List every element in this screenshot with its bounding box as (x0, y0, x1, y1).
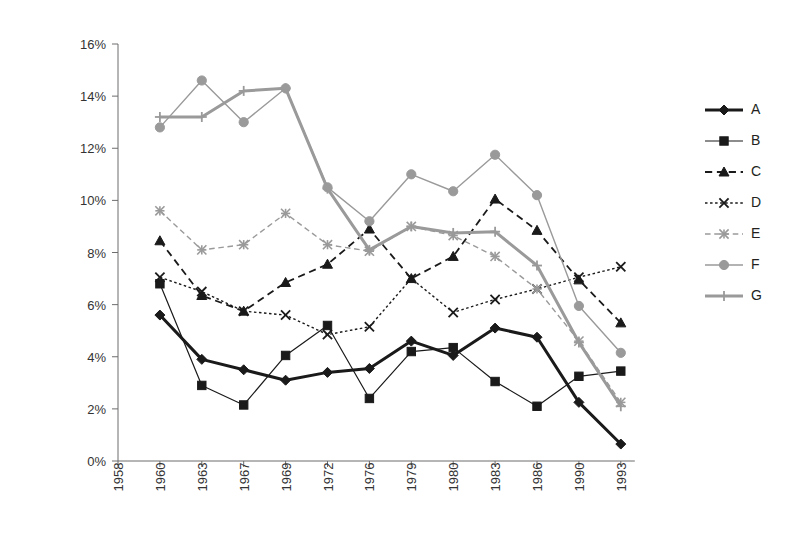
data-point-x-marker (616, 262, 625, 271)
data-point-diamond-marker (239, 365, 249, 375)
data-point-circle-marker (239, 118, 248, 127)
x-tick-label: 1976 (362, 463, 377, 492)
data-point-circle-marker (574, 301, 583, 310)
legend-item-E[interactable]: E (705, 225, 760, 241)
series-F (155, 76, 625, 358)
x-tick-label: 1963 (195, 463, 210, 492)
data-point-circle-marker (407, 170, 416, 179)
legend-label-G: G (751, 287, 762, 303)
y-tick-label: 10% (80, 193, 106, 208)
data-point-circle-marker (449, 187, 458, 196)
data-point-plus-marker (155, 112, 165, 122)
data-point-square-marker (720, 137, 728, 145)
y-tick-label: 6% (87, 298, 106, 313)
x-tick-label: 1980 (446, 463, 461, 492)
data-point-diamond-marker (323, 367, 333, 377)
data-point-square-marker (617, 367, 625, 375)
series-G (155, 83, 626, 411)
data-point-circle-marker (491, 150, 500, 159)
legend-item-F[interactable]: F (705, 256, 760, 272)
data-point-star-marker (197, 245, 206, 254)
data-point-square-marker (575, 372, 583, 380)
legend-item-D[interactable]: D (705, 194, 761, 210)
data-point-circle-marker (532, 191, 541, 200)
data-point-plus-marker (719, 291, 729, 301)
data-point-square-marker (533, 402, 541, 410)
x-tick-label: 1983 (488, 463, 503, 492)
series-line-D (160, 267, 621, 335)
data-point-square-marker (449, 343, 457, 351)
x-tick-label: 1986 (530, 463, 545, 492)
data-point-star-marker (281, 209, 290, 218)
data-point-square-marker (198, 381, 206, 389)
series-E (155, 206, 625, 407)
data-point-circle-marker (197, 76, 206, 85)
data-point-triangle-marker (532, 225, 542, 234)
x-tick-label: 1979 (404, 463, 419, 492)
legend-label-E: E (751, 225, 760, 241)
legend-item-C[interactable]: C (705, 163, 761, 179)
y-axis: 0%2%4%6%8%10%12%14%16% (80, 37, 118, 469)
y-tick-label: 8% (87, 246, 106, 261)
y-tick-label: 4% (87, 350, 106, 365)
data-point-diamond-marker (281, 375, 291, 385)
x-tick-label: 1969 (279, 463, 294, 492)
data-point-triangle-marker (490, 194, 500, 203)
legend-label-C: C (751, 163, 761, 179)
y-tick-label: 14% (80, 89, 106, 104)
legend-label-F: F (751, 256, 760, 272)
x-tick-label: 1972 (321, 463, 336, 492)
data-point-x-marker (281, 310, 290, 319)
legend-item-B[interactable]: B (705, 132, 760, 148)
series-A (155, 310, 626, 449)
legend-label-B: B (751, 132, 760, 148)
y-tick-label: 16% (80, 37, 106, 52)
data-point-square-marker (240, 401, 248, 409)
series-C (155, 194, 626, 327)
series-layer (155, 76, 626, 449)
x-tick-label: 1993 (614, 463, 629, 492)
legend-label-D: D (751, 194, 761, 210)
data-point-square-marker (365, 394, 373, 402)
legend-item-A[interactable]: A (705, 101, 761, 117)
data-point-star-marker (239, 240, 248, 249)
data-point-circle-marker (616, 348, 625, 357)
chart-legend: ABCDEFG (705, 101, 762, 303)
data-point-star-marker (323, 240, 332, 249)
data-point-square-marker (407, 347, 415, 355)
legend-label-A: A (751, 101, 761, 117)
data-point-x-marker (491, 295, 500, 304)
x-tick-label: 1967 (237, 463, 252, 492)
data-point-circle-marker (155, 123, 164, 132)
x-axis: 1958196019631967196919721976197919801983… (111, 461, 635, 491)
data-point-square-marker (323, 321, 331, 329)
data-point-square-marker (491, 377, 499, 385)
data-point-diamond-marker (719, 105, 729, 115)
data-point-star-marker (155, 206, 164, 215)
series-line-F (160, 80, 621, 352)
data-point-star-marker (719, 229, 728, 238)
x-tick-label: 1958 (111, 463, 126, 492)
data-point-x-marker (449, 308, 458, 317)
data-point-plus-marker (448, 228, 458, 238)
x-tick-label: 1960 (153, 463, 168, 492)
data-point-square-marker (281, 351, 289, 359)
chart-canvas: 0%2%4%6%8%10%12%14%16% 19581960196319671… (0, 0, 805, 541)
series-line-A (160, 315, 621, 444)
data-point-star-marker (491, 252, 500, 261)
data-point-triangle-marker (155, 236, 165, 245)
data-point-circle-marker (365, 217, 374, 226)
legend-item-G[interactable]: G (705, 287, 762, 303)
data-point-star-marker (532, 284, 541, 293)
x-tick-label: 1990 (572, 463, 587, 492)
series-line-C (160, 199, 621, 323)
y-tick-label: 2% (87, 402, 106, 417)
line-chart: 0%2%4%6%8%10%12%14%16% 19581960196319671… (0, 0, 805, 541)
y-tick-label: 12% (80, 141, 106, 156)
data-point-circle-marker (719, 260, 728, 269)
y-tick-label: 0% (87, 454, 106, 469)
data-point-triangle-marker (281, 277, 291, 286)
